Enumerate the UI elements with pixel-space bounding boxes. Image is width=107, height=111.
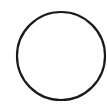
canvas <box>0 0 107 111</box>
circle-outline-icon <box>0 0 107 111</box>
circle-shape <box>17 12 105 100</box>
